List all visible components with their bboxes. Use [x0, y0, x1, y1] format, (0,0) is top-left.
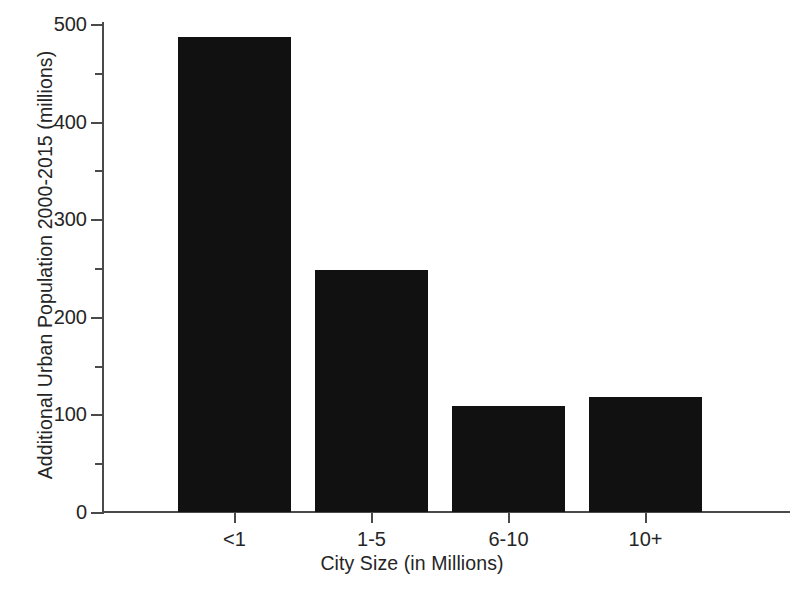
bar — [589, 397, 702, 512]
y-axis-tick-label: 500 — [54, 13, 87, 36]
y-axis-tick-label: 300 — [54, 208, 87, 231]
y-axis-tick-minor — [95, 463, 102, 465]
x-axis-tick-label: 1-5 — [357, 528, 386, 551]
x-axis-tick-label: 6-10 — [488, 528, 528, 551]
y-axis-tick-minor — [95, 170, 102, 172]
y-axis-tick-major — [91, 122, 102, 124]
y-axis-tick-label: 0 — [76, 501, 87, 524]
x-axis-tick-label: <1 — [223, 528, 246, 551]
y-axis-tick-major — [91, 24, 102, 26]
x-axis-tick — [371, 512, 373, 523]
y-axis-tick-minor — [95, 366, 102, 368]
x-axis-tick — [508, 512, 510, 523]
x-axis-tick — [645, 512, 647, 523]
y-axis-tick-major — [91, 414, 102, 416]
y-axis-title: Additional Urban Population 2000-2015 (m… — [30, 0, 60, 530]
y-axis-tick-label: 200 — [54, 305, 87, 328]
bar — [178, 37, 291, 512]
y-axis-tick-major — [91, 317, 102, 319]
x-axis-title: City Size (in Millions) — [102, 552, 722, 575]
x-axis-tick — [234, 512, 236, 523]
plot-area: 0100200300400500<11-56-1010+ — [102, 24, 790, 512]
y-axis-tick-minor — [95, 73, 102, 75]
y-axis-tick-minor — [95, 268, 102, 270]
y-axis-tick-label: 400 — [54, 110, 87, 133]
y-axis-tick-major — [91, 219, 102, 221]
x-axis-tick-label: 10+ — [629, 528, 663, 551]
bar — [452, 406, 565, 512]
bar-chart-figure: Additional Urban Population 2000-2015 (m… — [0, 0, 800, 592]
bar — [315, 270, 428, 512]
y-axis-tick-label: 100 — [54, 403, 87, 426]
y-axis-tick-major — [91, 512, 102, 514]
